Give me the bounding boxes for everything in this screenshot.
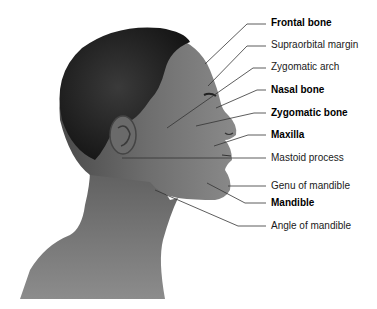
anatomy-figure: Frontal bone Supraorbital margin Zygomat… [0,0,377,309]
neck-shoulders [20,170,178,299]
label-zygomatic-bone: Zygomatic bone [271,107,348,119]
label-mandible: Mandible [271,197,314,209]
label-angle-of-mandible: Angle of mandible [271,220,351,232]
label-supraorbital-margin: Supraorbital margin [271,39,358,51]
label-zygomatic-arch: Zygomatic arch [271,61,339,73]
ear [110,116,136,154]
label-maxilla: Maxilla [271,129,304,141]
label-frontal-bone: Frontal bone [271,17,332,29]
label-genu-of-mandible: Genu of mandible [271,180,350,192]
label-nasal-bone: Nasal bone [271,84,324,96]
label-mastoid-process: Mastoid process [271,152,344,164]
